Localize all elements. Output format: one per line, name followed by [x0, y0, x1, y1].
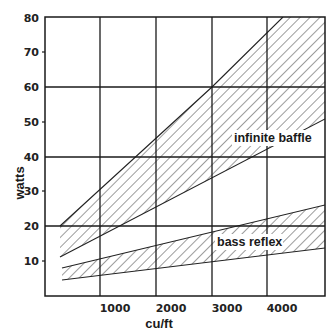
x-tick-1000: 1000 [100, 302, 131, 315]
bass-reflex-label: bass reflex [217, 235, 282, 249]
y-tick-70: 70 [24, 46, 40, 59]
y-tick-50: 50 [24, 116, 40, 129]
chart: 80 70 60 50 40 30 20 10 1000 2000 3000 4… [0, 0, 336, 335]
y-tick-60: 60 [24, 81, 40, 94]
y-axis-label: watts [12, 166, 27, 200]
x-axis-label: cu/ft [145, 316, 173, 331]
y-tick-40: 40 [24, 151, 40, 164]
infinite-baffle-label: infinite baffle [234, 131, 312, 145]
x-tick-2000: 2000 [156, 302, 187, 315]
y-tick-80: 80 [24, 12, 40, 25]
y-tick-10: 10 [24, 255, 40, 268]
y-tick-20: 20 [24, 220, 40, 233]
x-tick-3000: 3000 [212, 302, 243, 315]
x-tick-4000: 4000 [267, 302, 298, 315]
